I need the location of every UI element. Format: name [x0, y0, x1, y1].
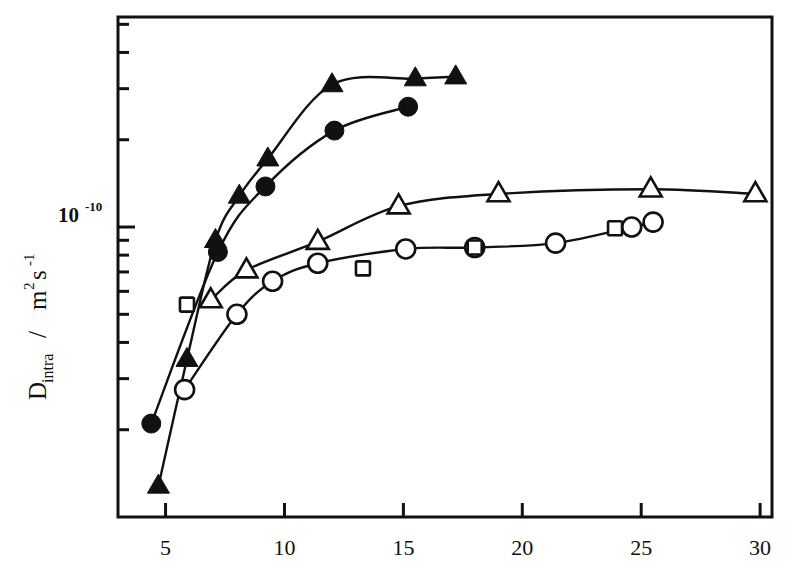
data-point-open-triangle [744, 182, 766, 201]
data-point-open-circle [175, 380, 194, 399]
y-axis-label-subscript: intra [39, 354, 56, 383]
y-axis-label-unit-s-exponent: -1 [21, 254, 37, 267]
data-point-open-square [608, 221, 622, 235]
data-point-filled-circle [399, 97, 418, 116]
series-line-filled-triangle [158, 77, 455, 486]
data-point-open-triangle [488, 182, 510, 201]
y-axis-ticks [118, 24, 135, 429]
chart-plot: 51015202530 10 -10 D intra / m 2 s -1 [0, 0, 798, 584]
x-axis-tick-label: 15 [392, 535, 414, 560]
data-point-open-square [468, 240, 482, 254]
y-tick-mantissa: 10 [58, 203, 79, 227]
data-point-filled-triangle [404, 67, 426, 86]
series-lines [151, 77, 755, 486]
y-axis-label-symbol: D [24, 382, 51, 400]
data-point-open-circle [644, 213, 663, 232]
y-axis-label-unit-m: m [24, 290, 51, 310]
data-point-filled-circle [142, 414, 161, 433]
y-axis-label-unit-s: s [24, 270, 51, 280]
y-axis-label: D intra / m 2 s -1 [21, 254, 56, 401]
data-point-filled-circle [208, 243, 227, 262]
x-axis-ticks [166, 503, 761, 517]
y-axis-tick-label: 10 -10 [58, 199, 102, 227]
data-point-open-square [180, 298, 194, 312]
data-point-open-circle [227, 305, 246, 324]
data-point-open-triangle [640, 177, 662, 196]
data-point-filled-circle [256, 177, 275, 196]
series-line-open-circle [185, 222, 654, 390]
data-point-filled-triangle [445, 65, 467, 84]
y-axis-label-separator: / [24, 331, 51, 338]
x-axis-tick-label: 30 [749, 535, 771, 560]
y-tick-exponent: -10 [85, 199, 102, 214]
x-axis-tick-label: 10 [273, 535, 295, 560]
data-point-open-circle [546, 234, 565, 253]
data-point-open-circle [396, 239, 415, 258]
data-point-open-circle [263, 272, 282, 291]
data-point-open-circle [308, 254, 327, 273]
data-point-filled-circle [325, 121, 344, 140]
y-axis-label-unit-m-exponent: 2 [21, 283, 37, 291]
plot-frame [118, 17, 772, 517]
x-axis-tick-label: 5 [160, 535, 171, 560]
x-axis-tick-labels: 51015202530 [160, 535, 771, 560]
data-point-filled-triangle [228, 184, 250, 203]
x-axis-tick-label: 25 [630, 535, 652, 560]
data-point-open-square [356, 261, 370, 275]
data-point-open-triangle [235, 258, 257, 277]
figure-root: 51015202530 10 -10 D intra / m 2 s -1 [0, 0, 798, 584]
data-point-filled-triangle [147, 474, 169, 493]
series-markers [142, 65, 767, 493]
data-point-open-circle [622, 218, 641, 237]
x-axis-tick-label: 20 [511, 535, 533, 560]
